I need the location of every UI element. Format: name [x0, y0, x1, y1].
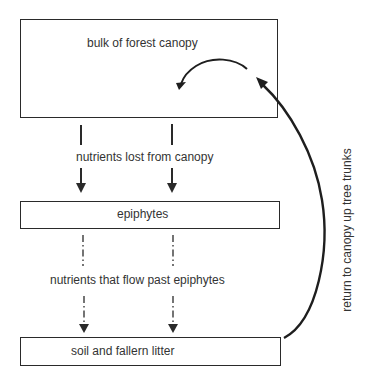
dashdot-arrow-left — [79, 235, 89, 333]
canopy-recycle-arrow — [176, 60, 247, 90]
arrows-layer — [0, 0, 368, 382]
solid-arrow-right — [167, 124, 177, 193]
solid-arrow-left — [76, 125, 86, 193]
return-arrow — [256, 77, 324, 338]
dashdot-arrow-right — [168, 235, 178, 333]
